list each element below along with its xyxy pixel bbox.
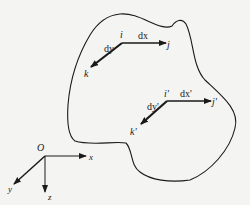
label-y: y [7,184,12,194]
label-i: i [120,29,123,40]
label-dx: dx [138,30,148,41]
element-after: i' dx' j' dy' k' [130,88,218,137]
label-dy-prime: dy' [147,101,159,112]
element-before: i dx j dy k [84,29,170,79]
label-i-prime: i' [164,88,170,99]
label-x: x [88,152,93,162]
label-j-prime: j' [210,96,218,107]
label-k-prime: k' [130,126,137,137]
label-z: z [47,192,52,202]
label-origin: O [37,142,44,153]
coordinate-axes: O x y z [7,142,93,202]
label-dy: dy [104,43,114,54]
deformation-diagram: i dx j dy k i' dx' j' dy' k' O x y z [0,0,250,205]
label-dx-prime: dx' [180,88,192,99]
label-j: j [165,39,170,50]
y-axis [14,156,45,184]
label-k: k [84,68,89,79]
